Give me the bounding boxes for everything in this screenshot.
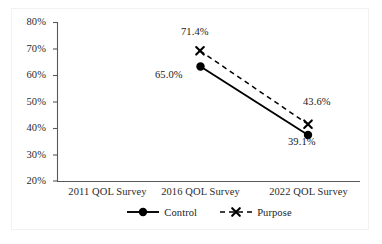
series-line-purpose: [200, 51, 308, 124]
data-label-purpose-2022: 43.6%: [303, 96, 331, 107]
y-tick-label-50: 50%: [14, 96, 46, 107]
marker-control-2016: [196, 62, 204, 70]
y-tick-label-80: 80%: [14, 16, 46, 27]
data-label-control-2016: 65.0%: [155, 69, 183, 80]
y-tick-label-70: 70%: [14, 43, 46, 54]
data-label-purpose-2016: 71.4%: [181, 26, 209, 37]
chart-legend: Control Purpose: [57, 203, 361, 221]
y-tick-label-20: 20%: [14, 175, 46, 186]
legend-label-purpose: Purpose: [257, 207, 292, 218]
legend-label-control: Control: [164, 207, 197, 218]
marker-purpose-2016: [196, 47, 204, 55]
legend-entry-purpose[interactable]: Purpose: [219, 206, 292, 218]
marker-purpose-2022: [304, 120, 312, 128]
y-axis-ticks: [53, 23, 58, 182]
chart-container: 80% 70% 60% 50% 40% 30% 20% 2011 QOL Sur…: [0, 0, 382, 244]
x-category-label-2016: 2016 QOL Survey: [150, 186, 251, 197]
legend-swatch-purpose-icon: [219, 206, 253, 218]
y-tick-label-30: 30%: [14, 149, 46, 160]
x-category-label-2022: 2022 QOL Survey: [258, 186, 359, 197]
y-tick-label-40: 40%: [14, 122, 46, 133]
data-label-control-2022: 39.1%: [288, 136, 316, 147]
legend-swatch-control-icon: [126, 206, 160, 218]
legend-entry-control[interactable]: Control: [126, 206, 197, 218]
y-tick-label-60: 60%: [14, 69, 46, 80]
series-line-control: [201, 67, 309, 136]
x-category-label-2011: 2011 QOL Survey: [57, 186, 158, 197]
